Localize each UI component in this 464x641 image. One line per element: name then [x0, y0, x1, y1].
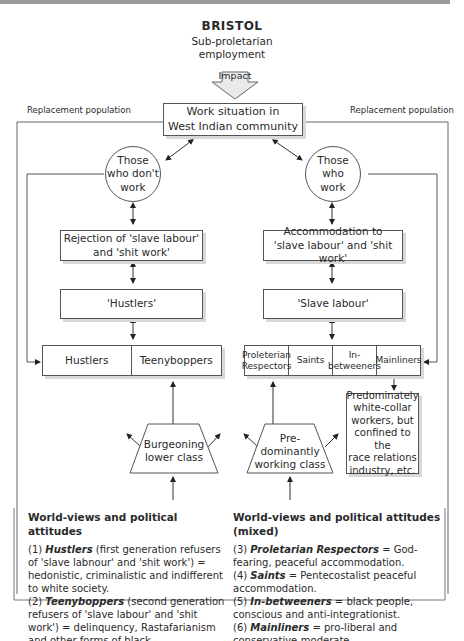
group-text: Respectors	[242, 361, 292, 371]
work-situation-line1: Work situation in	[187, 105, 280, 118]
group-text: In-	[349, 350, 361, 360]
impact-label: Impact	[215, 70, 255, 82]
item-term: Mainliners	[250, 622, 309, 633]
white-collar-text: race relations	[348, 452, 416, 463]
left-groups-box: Hustlers Teenyboppers	[42, 345, 222, 376]
legend-left-heading: World-views and political attitudes	[28, 511, 228, 538]
subtitle-line1: Sub-proletarian	[0, 35, 464, 48]
white-collar-text: workers, but	[351, 415, 413, 426]
item-number: (1)	[28, 544, 45, 555]
legend-item-4: (4) Saints = Pentecostalist peaceful acc…	[233, 569, 445, 595]
predominantly-working-class: Pre-dominantlyworking class	[247, 432, 333, 471]
class-text: Pre-	[280, 432, 300, 444]
rejection-text: Rejection of 'slave labour'	[64, 232, 199, 244]
replacement-population-left: Replacement population	[27, 105, 131, 116]
item-term: Saints	[250, 570, 285, 581]
group-mainliners: Mainliners	[377, 346, 420, 375]
item-number: (4)	[233, 570, 250, 581]
white-collar-text: industry, etc.	[349, 465, 415, 476]
group-text: Mainliners	[375, 355, 421, 366]
item-term: In-betweeners	[250, 596, 331, 607]
accommodation-text: Accommodation to	[284, 225, 383, 237]
subtitle-line2: employment	[0, 48, 464, 61]
diagram-title: BRISTOL	[0, 19, 464, 34]
group-text: Proleterian	[242, 350, 291, 360]
class-text: Burgeoning	[144, 438, 204, 450]
circle-text: work	[120, 181, 145, 193]
legend-item-3: (3) Proletarian Respectors = God-fearing…	[233, 543, 445, 569]
item-term: Teenyboppers	[45, 596, 124, 607]
replacement-population-right: Replacement population	[350, 105, 454, 116]
rejection-text: and 'shit work'	[93, 246, 170, 258]
circle-text: Those	[317, 154, 348, 166]
item-number: (5)	[233, 596, 250, 607]
group-text: Saints	[297, 355, 325, 366]
circle-text: who don't	[107, 167, 159, 179]
legend-item-2: (2) Teenyboppers (second generation refu…	[28, 595, 228, 641]
group-in-betweeners: In-betweeners	[333, 346, 377, 375]
group-proleterian-respectors: ProleterianRespectors	[245, 346, 289, 375]
group-saints: Saints	[289, 346, 333, 375]
slave-labour-box-text: 'Slave labour'	[297, 297, 368, 311]
accommodation-box: Accommodation to'slave labour' and 'shit…	[263, 230, 403, 261]
work-situation-line2: West Indian community	[168, 120, 298, 133]
circle-text: work	[320, 181, 345, 193]
white-collar-text: white-collar	[353, 402, 411, 413]
legend-left: World-views and political attitudes (1) …	[28, 511, 228, 641]
item-number: (2)	[28, 596, 45, 607]
class-text: dominantly	[260, 445, 319, 457]
accommodation-text: 'slave labour' and 'shit work'	[274, 239, 393, 265]
circle-text: Those	[117, 154, 148, 166]
those-who-dont-work-circle: Thosewho don'twork	[105, 146, 161, 202]
those-who-work-circle: Thosewhowork	[305, 146, 361, 202]
hustlers-box: 'Hustlers'	[60, 289, 203, 319]
item-term: Hustlers	[45, 544, 92, 555]
rejection-box: Rejection of 'slave labour'and 'shit wor…	[60, 230, 203, 261]
class-text: lower class	[145, 451, 203, 463]
item-number: (6)	[233, 622, 250, 633]
burgeoning-lower-class: Burgeoninglower class	[130, 438, 218, 464]
white-collar-text: Predominately	[346, 390, 418, 401]
group-teenyboppers: Teenyboppers	[132, 346, 222, 375]
group-hustlers: Hustlers	[43, 346, 132, 375]
slave-labour-box: 'Slave labour'	[263, 289, 403, 319]
hustlers-box-text: 'Hustlers'	[107, 297, 156, 311]
white-collar-box: Predominately white-collar workers, but …	[346, 393, 419, 474]
class-text: working class	[254, 458, 325, 470]
circle-text: who	[322, 167, 344, 179]
white-collar-text: confined to the	[354, 427, 410, 451]
work-situation-box: Work situation inWest Indian community	[163, 103, 303, 136]
legend-right: World-views and political attitudes (mix…	[233, 511, 445, 641]
legend-item-5: (5) In-betweeners = black people, consci…	[233, 595, 445, 621]
legend-right-heading: World-views and political attitudes (mix…	[233, 511, 445, 538]
legend-item-1: (1) Hustlers (first generation refusers …	[28, 543, 228, 595]
item-term: Proletarian Respectors	[250, 544, 379, 555]
item-number: (3)	[233, 544, 250, 555]
right-groups-box: ProleterianRespectors Saints In-betweene…	[244, 345, 421, 376]
group-text: betweeners	[328, 361, 381, 371]
legend-item-6: (6) Mainliners = pro-liberal and conserv…	[233, 621, 445, 641]
